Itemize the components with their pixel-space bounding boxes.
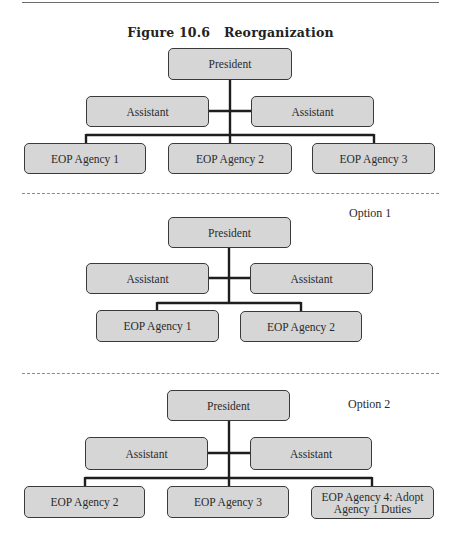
agency-box-3: EOP Agency 3 bbox=[312, 143, 435, 174]
assistant-label: Assistant bbox=[126, 273, 168, 285]
president-label: President bbox=[209, 58, 252, 70]
president-box: President bbox=[168, 217, 291, 248]
agency-box-3: EOP Agency 3 bbox=[167, 486, 289, 518]
agency-box-1: EOP Agency 1 bbox=[96, 310, 219, 342]
assistant-label: Assistant bbox=[290, 273, 332, 285]
assistant-box-left: Assistant bbox=[86, 263, 209, 294]
connector-lines bbox=[0, 0, 461, 547]
assistant-box-right: Assistant bbox=[250, 263, 373, 294]
president-label: President bbox=[208, 227, 251, 239]
assistant-label: Assistant bbox=[291, 106, 333, 118]
agency-box-4: EOP Agency 4: Adopt Agency 1 Duties bbox=[311, 486, 434, 519]
agency-label: EOP Agency 1 bbox=[51, 153, 119, 165]
president-box: President bbox=[168, 48, 292, 80]
assistant-box-left: Assistant bbox=[86, 96, 209, 127]
president-box: President bbox=[167, 390, 290, 421]
agency-box-2: EOP Agency 2 bbox=[168, 143, 292, 174]
agency-label: EOP Agency 2 bbox=[267, 321, 335, 333]
option-label: Option 2 bbox=[348, 397, 390, 412]
agency-label: EOP Agency 3 bbox=[340, 153, 408, 165]
agency-box-2: EOP Agency 2 bbox=[240, 311, 362, 342]
option-label: Option 1 bbox=[349, 206, 391, 221]
agency-label: EOP Agency 1 bbox=[124, 320, 192, 332]
agency-label-line-2: Agency 1 Duties bbox=[334, 503, 411, 515]
agency-label: EOP Agency 3 bbox=[194, 496, 262, 508]
president-label: President bbox=[207, 400, 250, 412]
agency-box-1: EOP Agency 1 bbox=[24, 143, 146, 174]
agency-label: EOP Agency 2 bbox=[51, 496, 119, 508]
assistant-box-right: Assistant bbox=[251, 96, 374, 127]
agency-box-2: EOP Agency 2 bbox=[24, 486, 145, 518]
assistant-box-right: Assistant bbox=[250, 437, 372, 470]
assistant-label: Assistant bbox=[125, 448, 167, 460]
assistant-box-left: Assistant bbox=[85, 437, 208, 470]
agency-label-line-1: EOP Agency 4: Adopt bbox=[321, 491, 423, 503]
agency-label: EOP Agency 2 bbox=[196, 153, 264, 165]
assistant-label: Assistant bbox=[126, 106, 168, 118]
assistant-label: Assistant bbox=[290, 448, 332, 460]
